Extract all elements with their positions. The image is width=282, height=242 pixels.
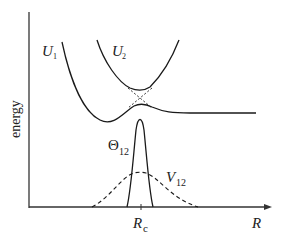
label-rc: R c <box>132 215 148 234</box>
svg-text:1: 1 <box>53 52 57 61</box>
curve-theta12 <box>127 120 153 208</box>
y-axis-label: energy <box>8 100 23 138</box>
svg-text:R: R <box>132 215 142 231</box>
energy-diagram: U 1 U 2 Θ 12 V 12 R c R energy <box>0 0 282 242</box>
curve-u1 <box>62 42 256 122</box>
svg-text:12: 12 <box>119 146 129 157</box>
label-theta12: Θ 12 <box>108 137 129 157</box>
label-u2: U 2 <box>112 43 126 61</box>
x-axis-label: R <box>251 215 261 231</box>
svg-text:12: 12 <box>176 177 186 188</box>
svg-text:c: c <box>143 222 148 234</box>
label-v12: V 12 <box>166 169 186 188</box>
label-u1: U 1 <box>42 43 57 61</box>
x-axis-arrow-icon <box>264 204 272 210</box>
svg-text:2: 2 <box>122 52 126 61</box>
curve-u2 <box>97 40 179 90</box>
svg-text:Θ: Θ <box>108 137 119 153</box>
